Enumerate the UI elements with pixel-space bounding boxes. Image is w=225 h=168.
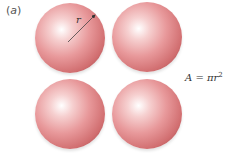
formula-eq: =	[192, 72, 207, 83]
area-formula: A = πr2	[185, 71, 223, 83]
radius-arrow	[0, 0, 225, 168]
radius-label: r	[76, 14, 81, 25]
formula-rhs: πr	[207, 72, 218, 83]
formula-exponent: 2	[218, 71, 222, 79]
